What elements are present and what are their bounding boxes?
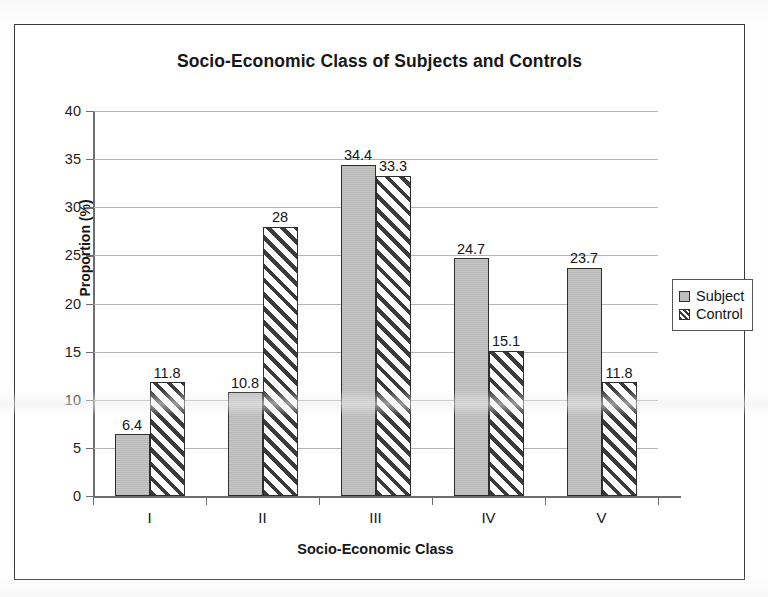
y-tick-mark-30 xyxy=(86,207,94,208)
y-tick-mark-40 xyxy=(86,111,94,112)
bar-subject-IV[interactable]: 24.7 xyxy=(454,258,489,496)
bar-value-label-subject-III: 34.4 xyxy=(344,148,372,163)
y-tick-mark-10 xyxy=(86,400,94,401)
category-tick-1 xyxy=(206,496,207,505)
bar-group-V: 23.711.8 xyxy=(545,111,658,496)
y-tick-label-20: 20 xyxy=(41,296,81,312)
y-tick-label-40: 40 xyxy=(41,103,81,119)
y-tick-label-0: 0 xyxy=(41,488,81,504)
y-tick-mark-20 xyxy=(86,304,94,305)
category-label-I: I xyxy=(147,509,151,526)
bars-row: 34.433.3 xyxy=(319,111,432,496)
bar-value-label-control-I: 11.8 xyxy=(153,366,180,381)
legend-swatch-control-icon xyxy=(679,309,690,320)
bar-value-label-subject-IV: 24.7 xyxy=(457,242,485,257)
bar-control-V[interactable]: 11.8 xyxy=(602,382,637,496)
bar-control-II[interactable]: 28 xyxy=(263,227,298,497)
bar-control-IV[interactable]: 15.1 xyxy=(489,351,524,496)
category-label-III: III xyxy=(369,509,382,526)
bar-value-label-control-V: 11.8 xyxy=(605,366,632,381)
category-label-II: II xyxy=(258,509,266,526)
y-tick-label-25: 25 xyxy=(41,247,81,263)
bar-subject-III[interactable]: 34.4 xyxy=(341,165,376,496)
y-tick-mark-35 xyxy=(86,159,94,160)
bar-subject-V[interactable]: 23.7 xyxy=(567,268,602,496)
bars-row: 23.711.8 xyxy=(545,111,658,496)
category-label-IV: IV xyxy=(481,509,495,526)
category-tick-3 xyxy=(432,496,433,505)
bar-value-label-subject-V: 23.7 xyxy=(570,251,598,266)
category-label-V: V xyxy=(596,509,606,526)
bar-group-II: 10.828 xyxy=(206,111,319,496)
chart-page: Socio-Economic Class of Subjects and Con… xyxy=(0,0,768,597)
legend-label-control: Control xyxy=(696,306,743,322)
bar-group-III: 34.433.3 xyxy=(319,111,432,496)
legend-entry-control[interactable]: Control xyxy=(679,306,744,322)
legend-swatch-subject-icon xyxy=(679,291,690,302)
legend-label-subject: Subject xyxy=(696,288,744,304)
legend-entry-subject[interactable]: Subject xyxy=(679,288,744,304)
y-tick-mark-0 xyxy=(86,496,94,497)
chart-title: Socio-Economic Class of Subjects and Con… xyxy=(15,51,744,72)
bars-row: 24.715.1 xyxy=(432,111,545,496)
bar-value-label-control-III: 33.3 xyxy=(379,159,407,174)
bar-control-I[interactable]: 11.8 xyxy=(150,382,185,496)
chart-frame: Socio-Economic Class of Subjects and Con… xyxy=(14,24,745,580)
x-axis-title: Socio-Economic Class xyxy=(93,541,658,557)
bar-value-label-subject-I: 6.4 xyxy=(122,418,142,433)
y-tick-label-5: 5 xyxy=(41,440,81,456)
category-tick-end xyxy=(658,496,659,505)
y-tick-label-15: 15 xyxy=(41,344,81,360)
y-tick-label-30: 30 xyxy=(41,199,81,215)
y-tick-label-10: 10 xyxy=(41,392,81,408)
y-axis-tick-labels: 0510152025303540 xyxy=(31,25,81,579)
bars-row: 10.828 xyxy=(206,111,319,496)
category-tick-4 xyxy=(545,496,546,505)
bar-group-IV: 24.715.1 xyxy=(432,111,545,496)
category-tick-2 xyxy=(319,496,320,505)
category-tick-0 xyxy=(93,496,94,505)
y-tick-mark-25 xyxy=(86,255,94,256)
bar-subject-I[interactable]: 6.4 xyxy=(115,434,150,496)
bars-row: 6.411.8 xyxy=(93,111,206,496)
gridline-0 xyxy=(93,496,658,497)
bar-control-III[interactable]: 33.3 xyxy=(376,176,411,497)
plot-area: 6.411.810.82834.433.324.715.123.711.8 xyxy=(93,111,658,496)
bar-value-label-control-IV: 15.1 xyxy=(492,334,520,349)
bar-group-I: 6.411.8 xyxy=(93,111,206,496)
bar-subject-II[interactable]: 10.8 xyxy=(228,392,263,496)
y-tick-label-35: 35 xyxy=(41,151,81,167)
bar-value-label-subject-II: 10.8 xyxy=(231,376,259,391)
y-tick-mark-15 xyxy=(86,352,94,353)
bar-value-label-control-II: 28 xyxy=(272,210,288,225)
y-tick-mark-5 xyxy=(86,448,94,449)
chart-legend: SubjectControl xyxy=(672,279,753,331)
